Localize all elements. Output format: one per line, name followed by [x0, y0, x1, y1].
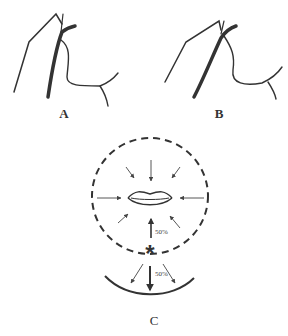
panel-b-right-vessel [224, 36, 282, 84]
panel-b-thick-vessel [194, 26, 236, 97]
asterisk-marker: * [145, 240, 155, 267]
panel-b-lower-branch [268, 82, 276, 99]
panel-a-thick-vessel [48, 26, 75, 97]
panel-a-right-vessel [61, 40, 118, 86]
panel-b-drawing [165, 21, 282, 99]
lower-50-label: 50% [155, 270, 168, 278]
dashed-boundary-circle [92, 138, 208, 254]
upper-50-label: 50% [155, 228, 168, 236]
panel-label-c: C [150, 313, 159, 329]
lips-icon [128, 192, 172, 205]
panel-b-left-vessel [165, 21, 221, 82]
panel-a-drawing [14, 14, 118, 106]
panel-label-b: B [215, 106, 224, 122]
panel-c-drawing: 50% * 50% [92, 138, 208, 294]
panel-label-a: A [59, 106, 68, 122]
diagram-canvas: 50% * 50% [0, 0, 288, 336]
panel-a-lower-branch [100, 86, 108, 106]
